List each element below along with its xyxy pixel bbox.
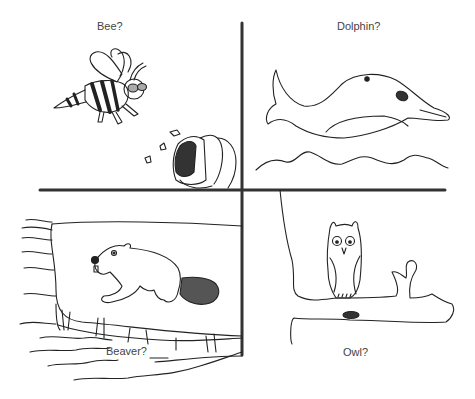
- illustration: [0, 0, 475, 399]
- tree-branch-icon: [280, 190, 454, 344]
- label-bee: Bee?: [97, 20, 123, 32]
- label-owl: Owl?: [343, 346, 368, 358]
- owl-icon: [327, 222, 361, 298]
- label-dolphin: Dolphin?: [337, 20, 380, 32]
- label-beaver: Beaver?: [106, 345, 147, 357]
- beaver-icon: [92, 244, 219, 305]
- small-bee-icons: [145, 130, 180, 163]
- bee-icon: [54, 49, 147, 124]
- beehive-icon: [173, 135, 236, 188]
- waves-icon: [256, 152, 448, 170]
- figure-canvas: Bee? Dolphin? Beaver? Owl?: [0, 0, 475, 399]
- dolphin-icon: [266, 70, 449, 138]
